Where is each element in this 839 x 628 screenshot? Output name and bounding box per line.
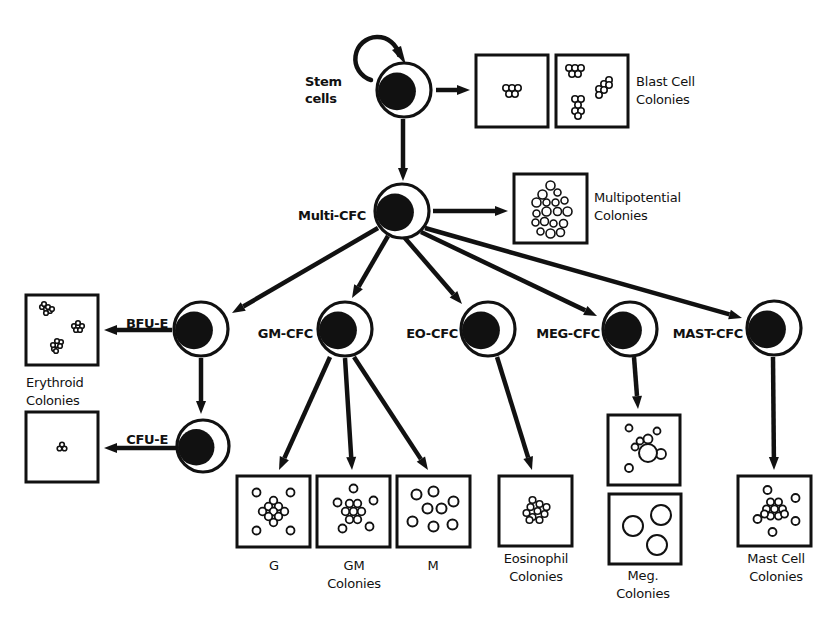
colony-plate-mast [738, 476, 811, 546]
cell-dot-icon [543, 504, 550, 511]
culture-dish-frame [609, 494, 681, 564]
colony-label-g: G [269, 558, 279, 573]
cell-dot-icon [270, 519, 278, 527]
cell-dot-icon [775, 498, 782, 505]
arrow-gm_cfc-12 [345, 358, 351, 457]
cell-dot-icon [541, 218, 549, 226]
cell-dot-icon [557, 229, 565, 237]
cell-bfu_e: BFU-E [126, 302, 228, 356]
cell-dot-icon [76, 321, 81, 326]
colony-label-mast: Mast Cell [747, 551, 805, 566]
cell-nucleus-icon [178, 429, 214, 465]
arrowhead-icon [728, 310, 742, 320]
arrow-gm_cfc-11 [284, 357, 330, 458]
arrow-multi-4 [359, 236, 388, 287]
cell-dot-icon [563, 207, 572, 216]
colony-plate-blast1 [476, 55, 548, 127]
cell-dot-icon [429, 487, 439, 497]
colony-plate-multipot [514, 174, 587, 243]
cell-dot-icon [253, 489, 261, 497]
cell-dot-icon [550, 220, 557, 227]
cell-mast_cfc: MAST-CFC [673, 301, 801, 355]
cell-dot-icon [554, 208, 562, 216]
cell-dot-icon [792, 517, 800, 525]
cell-dot-icon [358, 508, 366, 516]
cell-dot-icon [606, 82, 612, 88]
colony-label-blast: Colonies [636, 92, 690, 107]
cell-dot-icon [423, 504, 433, 514]
cell-dot-icon [51, 343, 56, 348]
cell-label-eo_cfc: EO-CFC [406, 326, 458, 341]
cell-dot-icon [339, 525, 347, 533]
colony-label-eosin: Colonies [509, 569, 563, 584]
colony-plate-g [237, 476, 310, 547]
cell-dot-icon [50, 307, 55, 312]
cell-stem: Stemcells [305, 63, 431, 117]
arrowhead-icon [196, 401, 206, 414]
colony-label-gm: GM [344, 558, 365, 573]
cell-dot-icon [767, 498, 774, 505]
cell-dot-icon [561, 197, 568, 204]
cell-dot-icon [792, 494, 800, 502]
progenitor-cells: StemcellsMulti-CFCBFU-ECFU-EGM-CFCEO-CFC… [126, 63, 801, 472]
cell-dot-icon [769, 528, 777, 536]
cell-dot-icon [58, 344, 63, 349]
cell-nucleus-icon [175, 311, 213, 349]
arrow-multi-3 [243, 228, 378, 306]
colony-plate-blast2 [556, 55, 628, 127]
cell-dot-icon [537, 228, 544, 235]
cell-eo_cfc: EO-CFC [406, 302, 515, 356]
cell-dot-icon [350, 485, 358, 493]
cell-label-stem: cells [305, 91, 337, 106]
cell-dot-icon [44, 311, 49, 316]
cell-dot-icon [334, 499, 342, 507]
arrowhead-icon [457, 85, 470, 95]
colony-plates [26, 55, 811, 564]
cell-dot-icon [532, 198, 541, 207]
arrowhead-icon [104, 325, 117, 335]
colony-plate-eosin [499, 476, 572, 546]
cell-dot-icon [526, 517, 533, 524]
colony-label-eosin: Eosinophil [504, 551, 568, 566]
cell-dot-icon [54, 349, 59, 354]
cell-dot-icon [55, 339, 60, 344]
colony-plate-meg2 [609, 494, 681, 564]
cell-meg_cfc: MEG-CFC [536, 302, 657, 356]
hematopoiesis-diagram: StemcellsMulti-CFCBFU-ECFU-EGM-CFCEO-CFC… [0, 0, 839, 628]
cell-dot-icon [533, 210, 540, 217]
cell-label-meg_cfc: MEG-CFC [536, 326, 600, 341]
cell-dot-icon [541, 511, 548, 518]
arrow-eo_cfc-14 [497, 357, 528, 458]
arrowhead-icon [495, 206, 508, 216]
colony-label-meg: Meg. [628, 568, 659, 583]
colony-plate-erythroid [26, 295, 98, 365]
cell-dot-icon [575, 71, 581, 77]
culture-dish-frame [26, 295, 98, 365]
cell-dot-icon [536, 517, 543, 524]
colony-plate-gm [317, 476, 390, 547]
colony-label-erythroid: Erythroid [26, 375, 84, 390]
colony-plate-meg1 [608, 415, 680, 485]
cell-dot-icon [78, 328, 83, 333]
cell-label-bfu_e: BFU-E [126, 316, 168, 331]
cell-dot-icon [412, 490, 422, 500]
cell-label-gm_cfc: GM-CFC [258, 326, 313, 341]
arrowhead-icon [523, 456, 533, 470]
cell-dot-icon [60, 442, 65, 447]
cell-dot-icon [437, 504, 447, 514]
cell-label-mast_cfc: MAST-CFC [673, 326, 743, 341]
arrowhead-icon [398, 168, 408, 181]
cell-dot-icon [560, 220, 568, 228]
cell-nucleus-icon [748, 310, 786, 348]
cell-dot-icon [342, 508, 350, 516]
colony-label-multipot: Colonies [594, 208, 648, 223]
arrow-meg_cfc-15 [634, 357, 637, 396]
cell-dot-icon [449, 497, 459, 507]
cell-gm_cfc: GM-CFC [258, 302, 372, 356]
cell-dot-icon [626, 425, 633, 432]
cell-dot-icon [575, 113, 581, 119]
cell-dot-icon [639, 444, 657, 462]
cell-dot-icon [538, 190, 547, 199]
cell-label-stem: Stem [305, 74, 342, 89]
cell-dot-icon [354, 516, 362, 524]
